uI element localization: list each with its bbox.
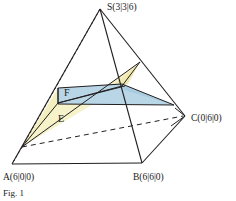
figure-caption: Fig. 1 xyxy=(3,188,24,198)
figure-container: S(3|3|6) A(6|0|0) B(6|6|0) C(0|6|0) F E … xyxy=(0,0,236,201)
label-vertex-A: A(6|0|0) xyxy=(3,172,34,183)
section-outlines-group xyxy=(22,62,174,147)
label-vertex-S: S(3|3|6) xyxy=(107,2,137,13)
pyramid-diagram: S(3|3|6) A(6|0|0) B(6|6|0) C(0|6|0) F E … xyxy=(0,0,236,201)
label-point-F: F xyxy=(64,87,70,98)
label-vertex-B: B(6|6|0) xyxy=(133,172,164,183)
label-vertex-C: C(0|6|0) xyxy=(191,113,222,124)
label-point-E: E xyxy=(58,113,64,124)
edge-A-B xyxy=(12,163,142,164)
